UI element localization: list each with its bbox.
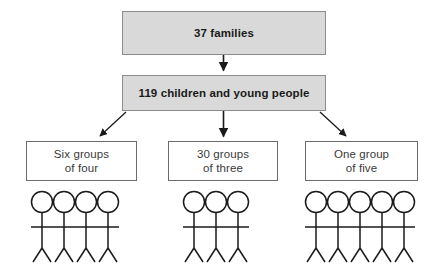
node-group-3-line1: One group <box>334 147 389 161</box>
node-group-1-line1: Six groups <box>54 147 109 161</box>
stick-figure-leg-right <box>382 248 391 262</box>
stick-figure-leg-left <box>229 248 238 262</box>
node-group-1-text: Six groups of four <box>54 147 109 176</box>
stick-figure-leg-right <box>42 248 51 262</box>
stick-figure-leg-left <box>329 248 338 262</box>
node-group-3-text: One group of five <box>334 147 389 176</box>
stick-figure-leg-left <box>99 248 108 262</box>
stick-figure-head <box>54 192 75 213</box>
stick-figure-leg-left <box>351 248 360 262</box>
stick-figure-head <box>372 192 393 213</box>
node-families: 37 families <box>122 11 326 55</box>
stick-figure-leg-left <box>33 248 42 262</box>
stick-figure-head <box>394 192 415 213</box>
node-group-1-line2: of four <box>54 161 109 175</box>
stick-figure-leg-right <box>194 248 203 262</box>
stick-figures-group-2 <box>182 188 268 268</box>
node-families-label: 37 families <box>194 26 254 40</box>
node-group-one-of-five: One group of five <box>305 141 418 181</box>
stick-figure-leg-left <box>185 248 194 262</box>
stick-figure-head <box>328 192 349 213</box>
stick-figure-leg-right <box>316 248 325 262</box>
arrow-children-to-group-3 <box>320 112 346 136</box>
stick-figure-leg-left <box>395 248 404 262</box>
stick-figure-head <box>184 192 205 213</box>
stick-figure-head <box>32 192 53 213</box>
stick-figure-head <box>350 192 371 213</box>
node-group-2-text: 30 groups of three <box>197 147 249 176</box>
stick-figure-head <box>306 192 327 213</box>
node-group-3-line2: of five <box>334 161 389 175</box>
node-children: 119 children and young people <box>122 75 326 111</box>
stick-figure-leg-right <box>86 248 95 262</box>
node-group-thirty-of-three: 30 groups of three <box>168 141 278 181</box>
stick-figure-leg-right <box>360 248 369 262</box>
arrow-children-to-group-1 <box>100 112 126 136</box>
node-group-2-line1: 30 groups <box>197 147 249 161</box>
node-children-label: 119 children and young people <box>139 86 310 100</box>
node-group-six-of-four: Six groups of four <box>26 141 137 181</box>
stick-figure-leg-left <box>77 248 86 262</box>
stick-figure-leg-right <box>108 248 117 262</box>
diagram-canvas: 37 families 119 children and young peopl… <box>0 0 437 271</box>
stick-figures-group-3 <box>304 188 422 268</box>
stick-figure-head <box>228 192 249 213</box>
stick-figure-leg-right <box>64 248 73 262</box>
stick-figure-leg-right <box>404 248 413 262</box>
node-group-2-line2: of three <box>197 161 249 175</box>
stick-figure-head <box>76 192 97 213</box>
stick-figure-leg-right <box>338 248 347 262</box>
stick-figure-leg-left <box>373 248 382 262</box>
stick-figure-leg-left <box>207 248 216 262</box>
stick-figure-leg-left <box>55 248 64 262</box>
stick-figure-head <box>206 192 227 213</box>
stick-figure-leg-right <box>238 248 247 262</box>
stick-figure-head <box>98 192 119 213</box>
stick-figures-group-1 <box>30 188 142 268</box>
stick-figure-leg-left <box>307 248 316 262</box>
stick-figure-leg-right <box>216 248 225 262</box>
